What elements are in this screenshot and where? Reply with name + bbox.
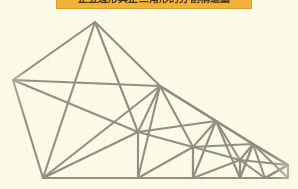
stage-2-subdivision: [138, 86, 216, 178]
geometric-figure: [0, 0, 298, 189]
stage-4-subdivision: [240, 144, 288, 178]
caption-banner: 正五邊形與正三角形的分割構造圖: [56, 0, 252, 9]
figure-canvas: 正五邊形與正三角形的分割構造圖: [0, 0, 298, 189]
outer-hull: [13, 22, 288, 178]
caption-text: 正五邊形與正三角形的分割構造圖: [78, 0, 231, 4]
